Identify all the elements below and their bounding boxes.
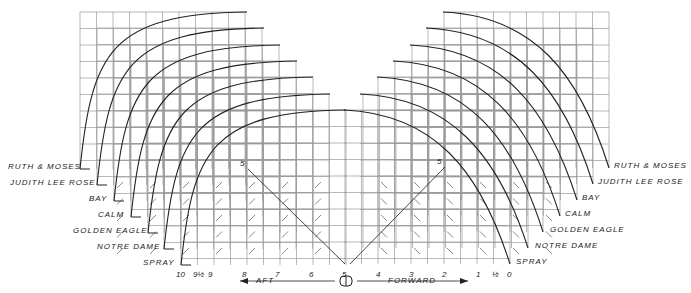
waterline-mark xyxy=(513,248,519,254)
boat-label-forward: GOLDEN EAGLE xyxy=(550,225,625,234)
boat-label-forward: BAY xyxy=(582,193,600,202)
waterline-mark xyxy=(546,215,552,221)
waterline-mark xyxy=(150,199,156,205)
waterline-mark xyxy=(150,215,156,221)
waterline-mark xyxy=(249,199,255,205)
waterline-mark xyxy=(513,182,519,188)
station-label: ½ xyxy=(492,270,499,279)
boat-label-aft: SPRAY xyxy=(143,258,175,267)
waterline-mark xyxy=(447,182,453,188)
waterline-mark xyxy=(480,182,486,188)
station-label: 2 xyxy=(442,270,446,279)
waterline-mark xyxy=(216,215,222,221)
waterline-mark xyxy=(117,182,123,188)
station-label: 8 xyxy=(242,270,246,279)
waterline-mark xyxy=(480,232,486,238)
forward-section-curve-0 xyxy=(443,12,609,168)
aft-label: AFT xyxy=(256,276,274,285)
hull-sections-diagram: RUTH & MOSESRUTH & MOSESJUDITH LEE ROSEJ… xyxy=(0,0,691,293)
waterline-mark xyxy=(150,232,156,238)
diagonal-label: 5 xyxy=(437,157,441,166)
boat-label-aft: NOTRE DAME xyxy=(97,242,160,251)
waterline-mark xyxy=(381,248,387,254)
station-label: 5 xyxy=(342,270,346,279)
station-label: 4 xyxy=(376,270,380,279)
waterline-mark xyxy=(315,248,321,254)
station-label: 1 xyxy=(476,270,480,279)
waterline-mark xyxy=(414,232,420,238)
waterline-mark xyxy=(381,182,387,188)
boat-label-forward: SPRAY xyxy=(516,257,548,266)
station-label: 0 xyxy=(507,270,511,279)
waterline-mark xyxy=(183,182,189,188)
waterline-mark xyxy=(315,199,321,205)
station-label: 9½ xyxy=(193,270,204,279)
waterline-mark xyxy=(447,248,453,254)
waterline-mark xyxy=(381,215,387,221)
waterline-mark xyxy=(513,199,519,205)
waterline-mark xyxy=(282,215,288,221)
waterline-mark xyxy=(480,248,486,254)
waterline-mark xyxy=(513,232,519,238)
boat-label-forward: NOTRE DAME xyxy=(535,241,598,250)
waterline-mark xyxy=(249,232,255,238)
boat-label-aft: JUDITH LEE ROSE xyxy=(10,178,96,187)
station-label: 7 xyxy=(275,270,279,279)
waterline-mark xyxy=(447,199,453,205)
boat-label-forward: RUTH & MOSES xyxy=(614,161,687,170)
boat-label-aft: CALM xyxy=(98,210,124,219)
waterline-mark xyxy=(315,182,321,188)
boat-label-forward: CALM xyxy=(565,209,591,218)
waterline-mark xyxy=(282,182,288,188)
waterline-mark xyxy=(249,248,255,254)
waterline-mark xyxy=(249,182,255,188)
waterline-mark xyxy=(414,182,420,188)
waterline-mark xyxy=(249,215,255,221)
waterline-mark xyxy=(381,199,387,205)
waterline-mark xyxy=(315,232,321,238)
waterline-mark xyxy=(414,215,420,221)
boat-label-aft: RUTH & MOSES xyxy=(8,162,81,171)
boat-label-aft: GOLDEN EAGLE xyxy=(73,226,148,235)
waterline-mark xyxy=(414,199,420,205)
station-label: 9 xyxy=(208,270,212,279)
boat-label-aft: BAY xyxy=(89,194,107,203)
waterline-mark xyxy=(183,199,189,205)
forward-label: FORWARD xyxy=(388,276,436,285)
station-label: 10 xyxy=(176,270,185,279)
waterline-mark xyxy=(183,248,189,254)
waterline-mark xyxy=(381,232,387,238)
waterline-mark xyxy=(216,248,222,254)
waterline-mark xyxy=(216,232,222,238)
diagonal-line xyxy=(350,167,445,264)
boat-label-forward: JUDITH LEE ROSE xyxy=(598,177,684,186)
waterline-mark xyxy=(216,182,222,188)
waterline-mark xyxy=(447,215,453,221)
forward-arrow-head xyxy=(460,278,468,284)
waterline-mark xyxy=(447,232,453,238)
waterline-mark xyxy=(546,199,552,205)
waterline-mark xyxy=(282,232,288,238)
station-label: 6 xyxy=(309,270,313,279)
diagonal-label: 5 xyxy=(240,159,244,168)
waterline-mark xyxy=(216,199,222,205)
waterline-mark xyxy=(282,248,288,254)
waterline-mark xyxy=(480,215,486,221)
waterline-mark xyxy=(315,215,321,221)
waterline-mark xyxy=(414,248,420,254)
